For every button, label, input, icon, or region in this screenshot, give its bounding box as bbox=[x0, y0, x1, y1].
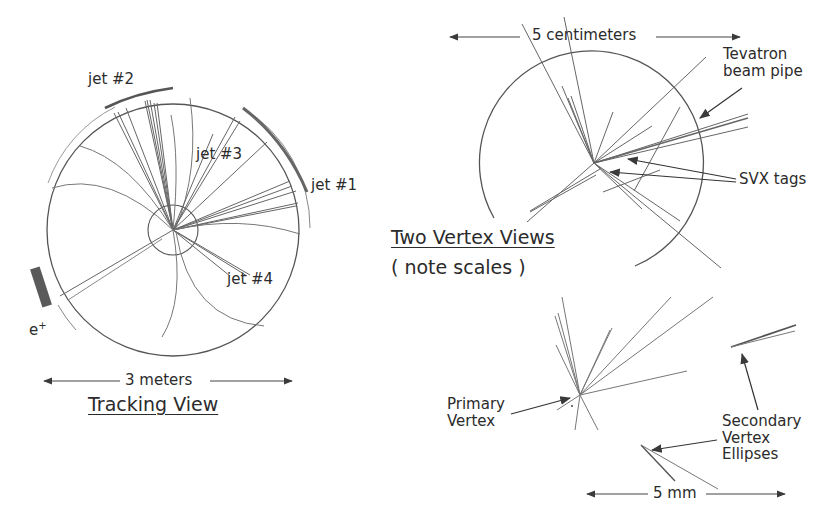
jet2-label: jet #2 bbox=[88, 71, 134, 88]
secondary-vertex-label-line3: Ellipses bbox=[722, 446, 801, 463]
secondary-vertex-arrow bbox=[652, 440, 717, 450]
beam-pipe-label-line1: Tevatron bbox=[723, 46, 803, 63]
secondary-vertex-label-line2: Vertex bbox=[722, 430, 801, 447]
outer-arc-left bbox=[48, 107, 115, 183]
centimeters-scale-label: 5 centimeters bbox=[532, 27, 636, 44]
positron-calorimeter-deposit bbox=[30, 266, 52, 307]
positron-symbol: e bbox=[29, 321, 38, 339]
jet1-label: jet #1 bbox=[311, 177, 357, 194]
jet2-tracks bbox=[114, 100, 173, 230]
positron-charge: + bbox=[38, 320, 46, 331]
beam-pipe-label: Tevatron beam pipe bbox=[723, 46, 803, 79]
tracking-scale-label: 3 meters bbox=[125, 372, 192, 389]
primary-vertex-label: Primary Vertex bbox=[447, 396, 505, 429]
vertex-views-title: Two Vertex Views bbox=[391, 227, 555, 248]
beam-pipe-arrow bbox=[700, 88, 742, 118]
primary-vertex-arrow bbox=[511, 398, 570, 414]
outer-arc-lower-left bbox=[58, 305, 76, 330]
secondary-vertex-arrow bbox=[742, 354, 758, 410]
secondary-vertex-label: Secondary Vertex Ellipses bbox=[722, 413, 801, 463]
vertex-dot bbox=[571, 405, 573, 407]
beam-pipe-label-line2: beam pipe bbox=[723, 63, 803, 80]
curved-track bbox=[171, 115, 176, 230]
primary-vertex-label-line1: Primary bbox=[447, 396, 505, 413]
positron-label: e+ bbox=[29, 320, 47, 339]
lower-vertex-view bbox=[511, 297, 796, 494]
positron-track bbox=[60, 230, 173, 296]
svx-tag-arrow bbox=[610, 172, 736, 182]
curved-track bbox=[173, 223, 300, 234]
svx-tags-label: SVX tags bbox=[739, 171, 806, 188]
tracking-view-title: Tracking View bbox=[88, 394, 218, 415]
primary-vertex-label-line2: Vertex bbox=[447, 413, 505, 430]
mm-scale-label: 5 mm bbox=[653, 485, 697, 502]
jet3-label: jet #3 bbox=[196, 146, 242, 163]
curved-track bbox=[162, 230, 177, 337]
jet1-tracks bbox=[173, 181, 298, 230]
secondary-vertex-label-line1: Secondary bbox=[722, 413, 801, 430]
vertex-views-subtitle: ( note scales ) bbox=[391, 257, 526, 278]
tracking-view bbox=[30, 88, 310, 381]
jet4-label: jet #4 bbox=[227, 271, 273, 288]
positron-track bbox=[68, 239, 162, 300]
jet1-calorimeter-deposit bbox=[243, 108, 307, 192]
